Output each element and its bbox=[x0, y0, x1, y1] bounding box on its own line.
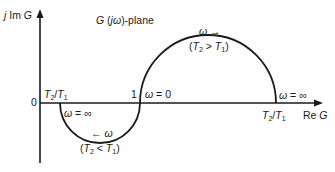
imag-axis-arrow-icon bbox=[37, 9, 44, 18]
one-label: 1 bbox=[131, 89, 137, 100]
omega-zero-label: ω = 0 bbox=[145, 89, 171, 100]
lower-direction-label: ← ω bbox=[91, 128, 113, 139]
left-ratio-label: T2/T1 bbox=[44, 89, 68, 101]
upper-end-label: ω = ∞ bbox=[279, 90, 307, 101]
upper-condition-label: (T2 > T1) bbox=[189, 41, 229, 53]
imag-axis-label: j Im G bbox=[4, 10, 32, 21]
real-axis-label: Re G bbox=[303, 110, 328, 121]
nyquist-diagram bbox=[0, 0, 335, 172]
plane-title: G (jω)-plane bbox=[96, 15, 154, 26]
upper-direction-label: ω → bbox=[199, 26, 221, 37]
lower-end-label: ω = ∞ bbox=[64, 108, 92, 119]
right-ratio-label: T2/T1 bbox=[262, 110, 286, 122]
real-axis-arrow-icon bbox=[314, 100, 323, 107]
lower-condition-label: (T2 < T1) bbox=[80, 143, 120, 155]
origin-label: 0 bbox=[31, 97, 37, 108]
